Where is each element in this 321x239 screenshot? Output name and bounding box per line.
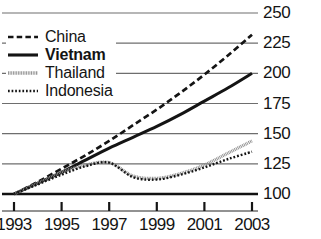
- x-tick-label-1995: 1995: [39, 216, 85, 233]
- x-tick-label-1993: 1993: [0, 216, 37, 233]
- y-tick-label-225: 225: [263, 34, 290, 51]
- x-axis: [2, 202, 258, 211]
- legend-label-indonesia: Indonesia: [45, 82, 113, 100]
- legend-item-indonesia: Indonesia: [8, 82, 113, 100]
- legend-label-vietnam: Vietnam: [45, 46, 106, 64]
- y-tick-label-250: 250: [263, 4, 290, 21]
- legend-label-thailand: Thailand: [45, 64, 105, 82]
- gdp-line-chart: 100125150175200225250 199319951997199920…: [0, 0, 321, 239]
- y-tick-label-150: 150: [263, 125, 290, 142]
- legend-item-thailand: Thailand: [8, 64, 113, 82]
- x-tick-label-2003: 2003: [229, 216, 275, 233]
- legend-swatch-dotted-icon: [8, 84, 38, 98]
- y-tick-label-100: 100: [263, 185, 290, 202]
- y-tick-label-200: 200: [263, 64, 290, 81]
- legend-item-vietnam: Vietnam: [8, 46, 113, 64]
- y-tick-label-125: 125: [263, 155, 290, 172]
- chart-legend: China Vietnam Thailand Indonesia: [6, 26, 116, 102]
- y-tick-label-175: 175: [263, 95, 290, 112]
- x-tick-label-1997: 1997: [86, 216, 132, 233]
- x-tick-label-1999: 1999: [134, 216, 180, 233]
- legend-label-china: China: [45, 28, 86, 46]
- series-line-thailand: [14, 141, 252, 194]
- x-tick-label-2001: 2001: [181, 216, 227, 233]
- legend-swatch-dashed-icon: [8, 30, 38, 44]
- legend-swatch-solid-icon: [8, 48, 38, 62]
- legend-item-china: China: [8, 28, 113, 46]
- legend-swatch-fine-dotted-icon: [8, 66, 38, 80]
